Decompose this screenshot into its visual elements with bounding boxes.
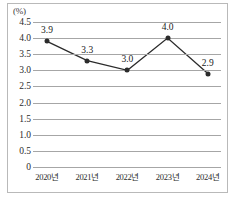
y-axis-tick: 0.5 xyxy=(1,146,31,156)
y-axis-tick-labels: 4.54.03.53.02.52.01.51.00.50 xyxy=(0,22,31,167)
data-point-label: 4.0 xyxy=(162,22,174,32)
y-axis-tick: 4.0 xyxy=(1,33,31,43)
gridline xyxy=(33,119,221,120)
data-point-marker xyxy=(85,58,90,63)
x-axis-tick: 2023년 xyxy=(156,170,180,182)
y-axis-tick: 3.5 xyxy=(1,49,31,59)
series-line xyxy=(33,22,221,167)
y-axis-tick: 1.5 xyxy=(1,114,31,124)
data-point-marker xyxy=(165,36,170,41)
data-point-marker xyxy=(125,68,130,73)
y-axis-tick: 0 xyxy=(1,162,31,172)
x-axis-tick: 2020년 xyxy=(35,170,59,182)
gridline xyxy=(33,167,221,168)
data-point-marker xyxy=(205,71,210,76)
gridline xyxy=(33,38,221,39)
gridline xyxy=(33,103,221,104)
y-axis-unit-label: (%) xyxy=(13,6,26,16)
data-point-label: 3.3 xyxy=(81,45,93,55)
x-axis-tick-labels: 2020년2021년2022년2023년2024년 xyxy=(33,170,221,190)
y-axis-tick: 2.0 xyxy=(1,98,31,108)
data-point-marker xyxy=(45,39,50,44)
y-axis-tick: 1.0 xyxy=(1,130,31,140)
gridline xyxy=(33,22,221,23)
x-axis-tick: 2021년 xyxy=(75,170,99,182)
x-axis-tick: 2024년 xyxy=(196,170,220,182)
gridline xyxy=(33,86,221,87)
gridline xyxy=(33,135,221,136)
line-chart: (%) 4.54.03.53.02.52.01.51.00.50 3.93.33… xyxy=(0,0,235,199)
y-axis-tick: 4.5 xyxy=(1,17,31,27)
data-point-label: 2.9 xyxy=(202,58,214,68)
y-axis-tick: 3.0 xyxy=(1,65,31,75)
y-axis-tick: 2.5 xyxy=(1,81,31,91)
data-point-label: 3.9 xyxy=(41,25,53,35)
gridline xyxy=(33,151,221,152)
data-point-label: 3.0 xyxy=(121,54,133,64)
x-axis-tick: 2022년 xyxy=(116,170,140,182)
plot-area: 3.93.33.04.02.9 xyxy=(33,22,221,167)
